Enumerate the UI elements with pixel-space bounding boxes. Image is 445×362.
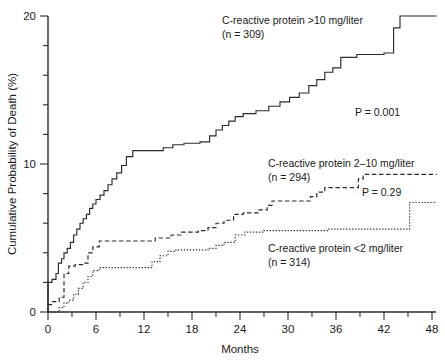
x-tick-label-48: 48 bbox=[426, 323, 439, 335]
curve-crp-low bbox=[48, 202, 437, 312]
kaplan-meier-figure: 0 10 20 Cumulative Probability of Death … bbox=[0, 0, 445, 362]
y-tick-label-10: 10 bbox=[23, 158, 36, 170]
x-tick-label-6: 6 bbox=[93, 323, 99, 335]
p-value-main-annotation: P = 0.001 bbox=[355, 106, 400, 118]
survival-curve-chart: 0 10 20 Cumulative Probability of Death … bbox=[0, 0, 445, 362]
p-value-secondary-annotation: P = 0.29 bbox=[362, 186, 401, 198]
series-label-crp-high-line1: C-reactive protein >10 mg/liter bbox=[222, 14, 363, 26]
series-label-crp-low-line1: C-reactive protein <2 mg/liter bbox=[268, 242, 404, 254]
x-tick-label-0: 0 bbox=[45, 323, 51, 335]
x-tick-label-36: 36 bbox=[330, 323, 343, 335]
x-tick-label-30: 30 bbox=[282, 323, 295, 335]
x-tick-label-12: 12 bbox=[138, 323, 151, 335]
y-tick-label-0: 0 bbox=[30, 306, 36, 318]
series-label-crp-middle-line2: (n = 294) bbox=[268, 171, 310, 183]
series-label-crp-low-line2: (n = 314) bbox=[268, 256, 310, 268]
y-axis-title: Cumulative Probability of Death (%) bbox=[6, 73, 18, 255]
series-label-crp-middle-line1: C-reactive protein 2–10 mg/liter bbox=[268, 157, 415, 169]
x-tick-label-42: 42 bbox=[378, 323, 391, 335]
x-tick-label-24: 24 bbox=[234, 323, 247, 335]
x-axis-major-ticks bbox=[48, 312, 432, 320]
series-label-crp-high-line2: (n = 309) bbox=[222, 28, 264, 40]
y-axis-major-ticks bbox=[40, 16, 48, 312]
x-tick-label-18: 18 bbox=[186, 323, 199, 335]
y-tick-label-20: 20 bbox=[23, 10, 36, 22]
x-axis-title: Months bbox=[221, 343, 259, 355]
